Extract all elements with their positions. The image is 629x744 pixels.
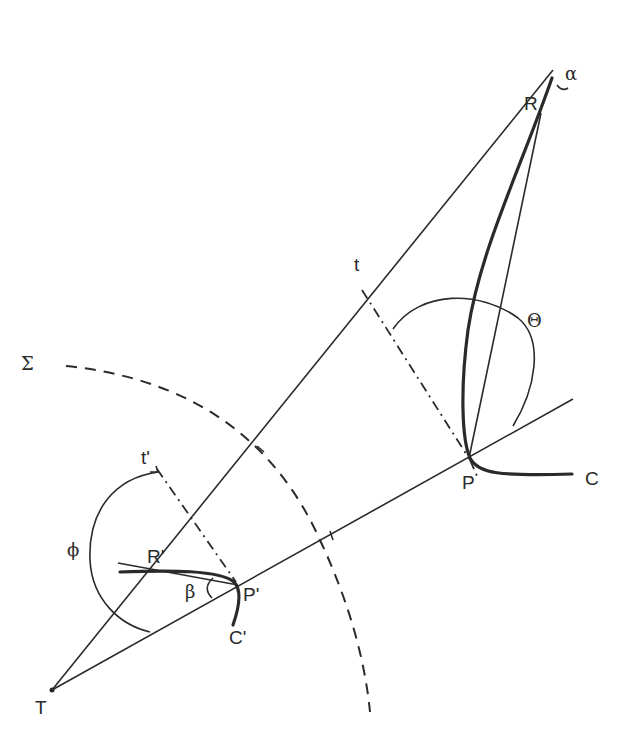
curve-C-prime (120, 571, 239, 625)
sigma-dashed-arc (66, 366, 370, 712)
tick-mark-lower (330, 531, 333, 540)
label-alpha: α (565, 63, 577, 84)
label-R: R (524, 93, 538, 114)
geometric-construction-diagram: α R t Θ Σ P C t' ϕ R' β P' C' T (0, 0, 629, 744)
label-C-prime: C' (229, 627, 246, 648)
label-Theta: Θ (527, 310, 542, 331)
curve-C (463, 78, 572, 475)
label-P: P (462, 472, 475, 493)
label-P-prime: P' (243, 584, 259, 605)
line-R-to-P (469, 113, 541, 458)
tangent-line-t-prime (157, 469, 236, 582)
label-phi: ϕ (67, 539, 79, 560)
label-t-prime: t' (141, 447, 150, 468)
label-T: T (35, 697, 47, 718)
alpha-angle-arc (557, 85, 568, 89)
line-T-to-P (52, 399, 573, 690)
point-T (50, 688, 55, 693)
label-beta: β (185, 581, 195, 602)
line-R-prime-to-P-prime (118, 563, 238, 585)
label-Sigma: Σ (21, 353, 34, 374)
label-C: C (585, 468, 599, 489)
line-T-to-R (52, 70, 553, 690)
phi-arc-end-tick (150, 466, 158, 472)
label-t: t (354, 254, 360, 275)
label-R-prime: R' (147, 546, 164, 567)
tangent-line-t (362, 290, 470, 460)
